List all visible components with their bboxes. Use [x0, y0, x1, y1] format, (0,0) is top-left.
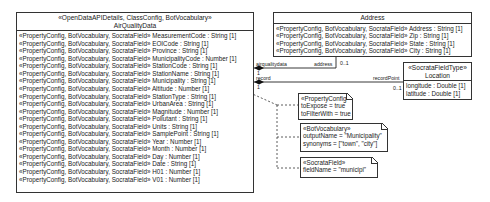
note-line: «SocrataField»: [303, 159, 375, 166]
note-line: fieldName = "municipi": [303, 166, 375, 173]
multiplicity-label: 1: [257, 84, 260, 90]
attribute: «PropertyConfig, BotVocabulary, SocrataF…: [19, 153, 251, 161]
attribute: «PropertyConfig, BotVocabulary, SocrataF…: [19, 77, 251, 85]
note-line: toExpose = true: [301, 102, 350, 109]
note-line: outputName = "Municipality": [303, 132, 385, 139]
note-line: «BotVocabulary»: [303, 125, 385, 132]
class-address[interactable]: Address «PropertyConfig, BotVocabulary, …: [273, 12, 472, 57]
note-line: synonyms = ["town", "city"]: [303, 140, 385, 147]
attribute: «PropertyConfig, BotVocabulary, SocrataF…: [19, 160, 251, 168]
attribute: «PropertyConfig, BotVocabulary, SocrataF…: [276, 47, 469, 55]
attribute: «PropertyConfig, BotVocabulary, SocrataF…: [19, 130, 251, 138]
attribute: «PropertyConfig, BotVocabulary, SocrataF…: [19, 32, 251, 40]
class-name: Address: [274, 14, 471, 22]
attribute: «PropertyConfig, BotVocabulary, SocrataF…: [19, 70, 251, 78]
attribute: «PropertyConfig, BotVocabulary, SocrataF…: [19, 93, 251, 101]
class-stereotype: «OpenDataAPIDetails, ClassConfig, BotVoc…: [17, 14, 253, 22]
role-label-airqualitydata: airqualitydata: [256, 61, 287, 67]
class-header: «SocrataFieldType» Location: [404, 63, 471, 81]
attribute: «PropertyConfig, BotVocabulary, SocrataF…: [276, 32, 469, 40]
attribute: «PropertyConfig, BotVocabulary, SocrataF…: [276, 40, 469, 48]
attribute: «PropertyConfig, BotVocabulary, SocrataF…: [19, 55, 251, 63]
note-botvocabulary[interactable]: «BotVocabulary» outputName = "Municipali…: [300, 123, 388, 152]
note-socratafield[interactable]: «SocrataField» fieldName = "municipi": [300, 157, 378, 178]
attribute-list: «PropertyConfig, BotVocabulary, SocrataF…: [274, 24, 471, 56]
attribute-list: longitude : Double [1] latitude : Double…: [404, 81, 471, 98]
class-stereotype: «SocrataFieldType»: [404, 64, 471, 72]
attribute: «PropertyConfig, BotVocabulary, SocrataF…: [19, 62, 251, 70]
attribute: «PropertyConfig, BotVocabulary, SocrataF…: [19, 85, 251, 93]
class-airqualitydata[interactable]: «OpenDataAPIDetails, ClassConfig, BotVoc…: [16, 12, 254, 193]
class-header: «OpenDataAPIDetails, ClassConfig, BotVoc…: [17, 13, 253, 31]
attribute: «PropertyConfig, BotVocabulary, SocrataF…: [19, 138, 251, 146]
attribute: «PropertyConfig, BotVocabulary, SocrataF…: [19, 168, 251, 176]
attribute: «PropertyConfig, BotVocabulary, SocrataF…: [19, 123, 251, 131]
attribute: longitude : Double [1]: [406, 82, 469, 90]
class-header: Address: [274, 13, 471, 24]
class-location[interactable]: «SocrataFieldType» Location longitude : …: [403, 62, 472, 100]
attribute: «PropertyConfig, BotVocabulary, SocrataF…: [19, 176, 251, 184]
note-propertyconfig[interactable]: «PropertyConfig» toExpose = true toFilte…: [298, 93, 353, 120]
attribute: «PropertyConfig, BotVocabulary, SocrataF…: [19, 115, 251, 123]
role-label-address: address: [314, 61, 332, 67]
note-line: «PropertyConfig»: [301, 95, 350, 102]
attribute-list: «PropertyConfig, BotVocabulary, SocrataF…: [17, 31, 253, 184]
class-name: AirQualityData: [17, 22, 253, 30]
attribute: «PropertyConfig, BotVocabulary, SocrataF…: [19, 100, 251, 108]
multiplicity-label: 0..1: [393, 85, 402, 91]
multiplicity-label: 0..1: [340, 60, 349, 66]
role-label-recordpoint: recordPoint: [373, 75, 400, 81]
attribute: «PropertyConfig, BotVocabulary, SocrataF…: [19, 145, 251, 153]
attribute: «PropertyConfig, BotVocabulary, SocrataF…: [19, 40, 251, 48]
attribute: «PropertyConfig, BotVocabulary, SocrataF…: [19, 108, 251, 116]
attribute: latitude : Double [1]: [406, 90, 469, 98]
attribute: «PropertyConfig, BotVocabulary, SocrataF…: [276, 25, 469, 33]
class-name: Location: [404, 72, 471, 80]
note-line: toFilterWith = true: [301, 110, 350, 117]
role-label-record: record: [256, 75, 271, 81]
attribute: «PropertyConfig, BotVocabulary, SocrataF…: [19, 47, 251, 55]
